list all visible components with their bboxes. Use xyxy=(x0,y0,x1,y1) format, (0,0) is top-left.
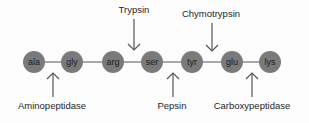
enzyme-label: Carboxypeptidase xyxy=(214,100,291,111)
residue-glu: glu xyxy=(221,51,243,73)
enzyme-label: Chymotrypsin xyxy=(182,8,240,19)
diagram-canvas: alaglyargsertyrglulys TrypsinChymotrypsi… xyxy=(0,0,309,123)
residue-tyr: tyr xyxy=(181,51,203,73)
enzyme-label: Trypsin xyxy=(119,4,150,15)
peptide-cleavage-diagram: alaglyargsertyrglulys TrypsinChymotrypsi… xyxy=(0,0,309,123)
enzyme-label: Pepsin xyxy=(157,100,186,111)
residue-ser: ser xyxy=(141,51,163,73)
enzyme-chymotrypsin: Chymotrypsin xyxy=(182,8,240,51)
enzyme-carboxypeptidase: Carboxypeptidase xyxy=(214,73,291,111)
residue-ala: ala xyxy=(23,51,45,73)
enzyme-trypsin: Trypsin xyxy=(119,4,150,50)
residue-arg: arg xyxy=(102,51,124,73)
enzyme-aminopeptidase: Aminopeptidase xyxy=(18,73,86,111)
residue-label: tyr xyxy=(187,57,197,67)
residue-label: arg xyxy=(106,57,119,67)
top-enzyme-group: TrypsinChymotrypsin xyxy=(119,4,240,51)
enzyme-label: Aminopeptidase xyxy=(18,100,86,111)
residue-group: alaglyargsertyrglulys xyxy=(23,51,281,73)
residue-label: lys xyxy=(265,57,276,67)
residue-label: ser xyxy=(146,57,159,67)
residue-label: gly xyxy=(66,57,78,67)
residue-lys: lys xyxy=(259,51,281,73)
residue-label: ala xyxy=(28,57,40,67)
residue-label: glu xyxy=(226,57,238,67)
residue-gly: gly xyxy=(61,51,83,73)
bottom-enzyme-group: AminopeptidasePepsinCarboxypeptidase xyxy=(18,73,290,111)
enzyme-pepsin: Pepsin xyxy=(157,73,186,111)
